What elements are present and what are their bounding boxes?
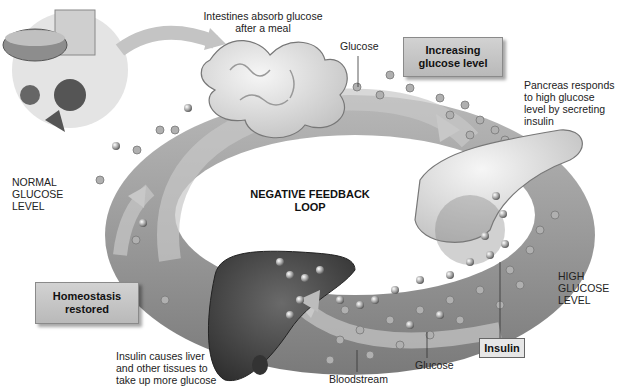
bloodstream-label: Bloodstream	[329, 373, 388, 385]
intestines-label: Intestines absorb glucose after a meal	[188, 10, 338, 34]
high-glucose-label: HIGH GLUCOSE LEVEL	[558, 270, 609, 306]
label-line: Insulin causes liver	[116, 350, 216, 362]
meal-arrow-icon	[120, 33, 215, 50]
label-line: LEVEL	[558, 294, 609, 306]
label-line: to high glucose	[524, 91, 614, 103]
box-line: restored	[53, 303, 121, 316]
label-line: level by secreting	[524, 103, 614, 115]
label-line: after a meal	[188, 22, 338, 34]
box-line: glucose level	[418, 57, 487, 70]
box-line: Homeostasis	[53, 290, 121, 303]
label-line: insulin	[524, 115, 614, 127]
pancreas-label: Pancreas responds to high glucose level …	[524, 79, 614, 127]
label-line: GLUCOSE	[12, 188, 63, 200]
label-line: and other tissues to	[116, 362, 216, 374]
label-line: take up more glucose	[116, 374, 216, 386]
label-line: GLUCOSE	[558, 282, 609, 294]
glucose-top-label: Glucose	[340, 40, 379, 52]
loop-title: NEGATIVE FEEDBACK LOOP	[250, 188, 370, 214]
label-line: Intestines absorb glucose	[188, 10, 338, 22]
glucose-bottom-label: Glucose	[415, 359, 454, 371]
food-illustration	[3, 10, 128, 132]
label-line: NORMAL	[12, 176, 63, 188]
box-line: Increasing	[418, 44, 487, 57]
insulin-box: Insulin	[479, 338, 525, 358]
normal-glucose-label: NORMAL GLUCOSE LEVEL	[12, 176, 63, 212]
increasing-glucose-box: Increasing glucose level	[403, 37, 503, 77]
label-line: HIGH	[558, 270, 609, 282]
label-line: Pancreas responds	[524, 79, 614, 91]
label-line: LEVEL	[12, 200, 63, 212]
homeostasis-restored-box: Homeostasis restored	[35, 282, 139, 324]
title-line: NEGATIVE FEEDBACK	[250, 188, 370, 201]
title-line: LOOP	[250, 201, 370, 214]
liver-uptake-label: Insulin causes liver and other tissues t…	[116, 350, 216, 386]
